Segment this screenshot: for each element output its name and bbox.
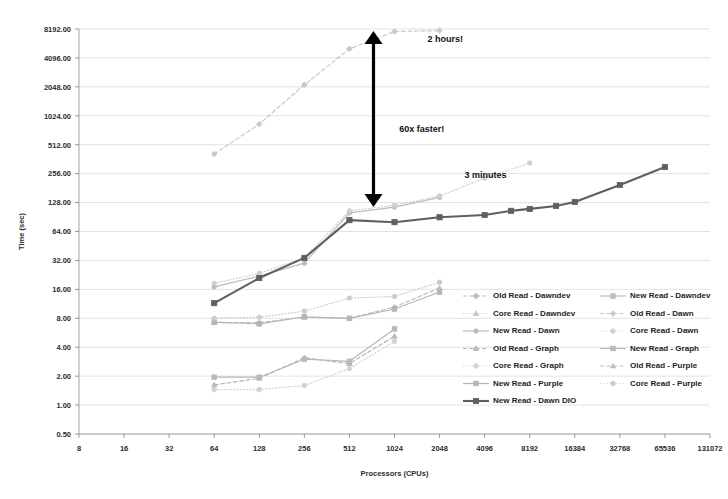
y-tick-label: 64.00 xyxy=(52,227,71,236)
x-tick-label: 4096 xyxy=(476,444,493,453)
data-point-marker xyxy=(302,309,307,314)
data-point-marker xyxy=(257,315,262,320)
data-point-marker xyxy=(212,375,217,380)
data-point-marker xyxy=(257,387,262,392)
data-point-marker xyxy=(257,322,262,327)
y-axis-title: Time (sec) xyxy=(17,213,26,250)
data-point-marker xyxy=(392,294,397,299)
y-tick-label: 8.00 xyxy=(56,314,71,323)
data-point-marker xyxy=(474,381,479,386)
data-point-marker xyxy=(392,307,397,312)
legend-item-core-read-dawndev[interactable]: Core Read - Dawndev xyxy=(463,309,576,318)
y-tick-label: 512.00 xyxy=(48,141,71,150)
x-tick-label: 512 xyxy=(343,444,356,453)
y-tick-label: 32.00 xyxy=(52,256,71,265)
y-tick-label: 0.50 xyxy=(56,430,71,439)
data-point-marker xyxy=(347,218,352,223)
data-point-marker xyxy=(508,208,513,213)
data-point-marker xyxy=(212,316,217,321)
data-point-marker xyxy=(256,121,262,127)
data-point-marker xyxy=(437,28,443,34)
legend-item-new-read-dawn-dio[interactable]: New Read - Dawn DIO xyxy=(463,396,576,405)
legend-label: New Read - Purple xyxy=(493,379,564,388)
chart-container: 2 hours!60x faster!3 minutes 8192.004096… xyxy=(0,0,728,499)
x-tick-label: 16384 xyxy=(564,444,586,453)
x-tick-label: 2048 xyxy=(431,444,448,453)
x-tick-label: 8 xyxy=(77,444,81,453)
y-tick-label: 4.00 xyxy=(56,343,71,352)
data-point-marker xyxy=(611,346,616,351)
data-point-marker xyxy=(474,329,479,334)
y-tick-label: 256.00 xyxy=(48,169,71,178)
data-point-marker xyxy=(473,311,478,316)
legend-item-old-read-dawndev[interactable]: Old Read - Dawndev xyxy=(463,291,571,300)
legend-item-new-read-dawn[interactable]: New Read - Dawn xyxy=(463,326,560,335)
x-tick-label: 64 xyxy=(210,444,219,453)
legend-item-old-read-purple[interactable]: Old Read - Purple xyxy=(600,361,698,370)
series-line xyxy=(214,282,439,318)
x-tick-label: 16 xyxy=(120,444,128,453)
y-tick-label: 8192.00 xyxy=(44,25,71,34)
data-point-marker xyxy=(347,209,352,214)
data-point-marker xyxy=(527,161,532,166)
data-point-marker xyxy=(347,316,352,321)
x-tick-label: 32 xyxy=(165,444,173,453)
legend-label: New Read - Dawndev xyxy=(630,291,711,300)
y-tick-label: 16.00 xyxy=(52,285,71,294)
legend-label: New Read - Graph xyxy=(630,344,699,353)
legend-label: Core Read - Dawn xyxy=(630,326,699,335)
series-old-read-dawn xyxy=(211,28,442,157)
series-line xyxy=(214,31,439,154)
speedup-arrow xyxy=(365,31,383,207)
data-point-marker xyxy=(482,212,487,217)
chart-annotation: 3 minutes xyxy=(464,170,506,180)
legend-item-new-read-purple[interactable]: New Read - Purple xyxy=(463,379,564,388)
legend-label: Old Read - Dawndev xyxy=(493,291,571,300)
legend-label: Old Read - Purple xyxy=(630,361,698,370)
legend-item-new-read-dawndev[interactable]: New Read - Dawndev xyxy=(600,291,711,300)
chart-legend: Old Read - DawndevNew Read - DawndevCore… xyxy=(463,291,711,405)
y-tick-label: 4096.00 xyxy=(44,54,71,63)
data-point-marker xyxy=(257,375,262,380)
data-point-marker xyxy=(212,281,217,286)
legend-label: New Read - Dawn DIO xyxy=(493,396,576,405)
data-point-marker xyxy=(392,334,397,339)
series-layer xyxy=(211,28,667,392)
data-point-marker xyxy=(257,275,262,280)
data-point-marker xyxy=(347,296,352,301)
data-point-marker xyxy=(302,357,307,362)
data-point-marker xyxy=(347,366,352,371)
series-line xyxy=(214,292,439,324)
data-point-marker xyxy=(437,194,442,199)
legend-item-core-read-dawn[interactable]: Core Read - Dawn xyxy=(600,326,699,335)
data-point-marker xyxy=(617,182,622,187)
data-point-marker xyxy=(437,280,442,285)
legend-item-core-read-purple[interactable]: Core Read - Purple xyxy=(600,379,703,388)
legend-label: Core Read - Dawndev xyxy=(493,309,576,318)
x-tick-label: 131072 xyxy=(697,444,722,453)
data-point-marker xyxy=(474,364,479,369)
data-point-marker xyxy=(392,29,398,35)
legend-item-old-read-dawn[interactable]: Old Read - Dawn xyxy=(600,309,694,318)
series-new-read-purple xyxy=(212,290,442,326)
data-point-marker xyxy=(392,220,397,225)
x-tick-label: 8192 xyxy=(521,444,538,453)
x-tick-label: 32768 xyxy=(609,444,630,453)
axis-tick-labels-layer: 8192.004096.002048.001024.00512.00256.00… xyxy=(44,25,723,453)
series-new-read-dawn xyxy=(212,195,442,289)
data-point-marker xyxy=(212,301,217,306)
series-line xyxy=(214,329,394,377)
y-tick-label: 1024.00 xyxy=(44,112,71,121)
data-point-marker xyxy=(347,359,352,364)
legend-item-new-read-graph[interactable]: New Read - Graph xyxy=(600,344,699,353)
legend-label: New Read - Dawn xyxy=(493,326,560,335)
legend-item-core-read-graph[interactable]: Core Read - Graph xyxy=(463,361,564,370)
chart-annotation: 2 hours! xyxy=(427,34,463,44)
data-point-marker xyxy=(610,311,616,317)
legend-item-old-read-graph[interactable]: Old Read - Graph xyxy=(463,344,559,353)
data-point-marker xyxy=(527,206,532,211)
data-point-marker xyxy=(611,381,616,386)
legend-label: Core Read - Graph xyxy=(493,361,564,370)
legend-label: Old Read - Graph xyxy=(493,344,559,353)
y-tick-label: 2.00 xyxy=(56,372,71,381)
